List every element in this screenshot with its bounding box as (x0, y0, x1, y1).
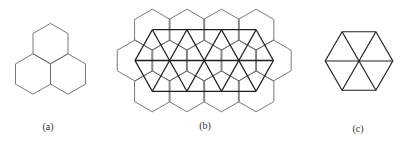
lattice-line (187, 30, 204, 61)
lattice-line (170, 61, 187, 92)
lattice-line (135, 61, 152, 92)
lattice-line (135, 30, 152, 61)
spoke-line (342, 61, 359, 90)
lattice-line (256, 61, 273, 92)
lattice-line (187, 61, 204, 92)
lattice-line (256, 30, 273, 61)
lattice-line (170, 30, 187, 61)
spoke-line (342, 32, 359, 61)
lattice-line (239, 30, 256, 61)
lattice-line (152, 61, 169, 92)
lattice-line (204, 30, 221, 61)
figure: (a) (b) (c) (0, 0, 410, 145)
hexagon (51, 54, 86, 94)
panel-a-three-hexagons (16, 23, 86, 94)
lattice-line (222, 30, 239, 61)
spoke-line (359, 61, 376, 90)
lattice-line (222, 61, 239, 92)
panel-c-label: (c) (352, 123, 363, 134)
panel-c-subdivided-hexagon (325, 32, 393, 91)
spoke-line (359, 32, 376, 61)
lattice-line (239, 61, 256, 92)
hexagon (16, 54, 51, 94)
panel-a-label: (a) (42, 121, 53, 132)
panel-b-label: (b) (199, 120, 211, 131)
panel-b-hex-tiling-with-lattice (117, 9, 291, 112)
lattice-line (152, 30, 169, 61)
lattice-line (204, 61, 221, 92)
hexagon (33, 23, 68, 63)
